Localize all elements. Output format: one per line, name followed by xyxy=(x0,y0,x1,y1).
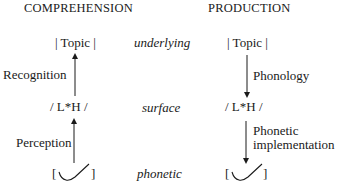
rising-pitch-contour-icon xyxy=(232,164,262,180)
rising-pitch-contour-icon xyxy=(59,164,89,180)
diagram-arrows xyxy=(0,0,338,193)
